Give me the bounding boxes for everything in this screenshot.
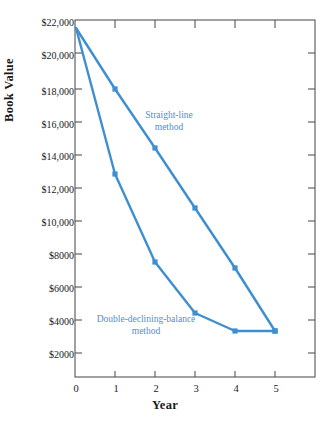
series-straight-line xyxy=(76,28,275,331)
x-axis-ticks xyxy=(115,371,275,377)
right-axis-ticks xyxy=(308,53,315,353)
annotation-ddb-line1: Double-declining-balance xyxy=(84,314,208,326)
annotation-straight-line-line1: Straight-line xyxy=(126,110,212,122)
plot-area xyxy=(0,0,330,427)
annotation-straight-line-line2: method xyxy=(126,122,212,134)
book-value-depreciation-chart: Book Value $22,000 $20,000 $18,000 $16,0… xyxy=(0,0,330,427)
y-axis-ticks xyxy=(75,53,82,353)
annotation-double-declining-balance: Double-declining-balance method xyxy=(84,314,208,337)
annotation-ddb-line2: method xyxy=(84,326,208,338)
series-double-declining-balance-markers xyxy=(112,171,277,333)
top-axis-ticks xyxy=(115,20,275,28)
annotation-straight-line: Straight-line method xyxy=(126,110,212,133)
